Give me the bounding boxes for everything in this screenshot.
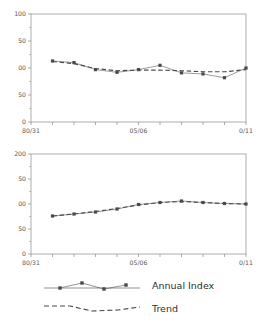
data-point-marker [72,61,75,64]
data-point-marker [115,71,118,74]
y-tick-label: 50 [18,37,26,44]
y-tick-label: 50 [18,225,26,232]
y-tick-label: 50 [18,175,26,182]
data-point-marker [94,210,97,213]
y-tick-label: 0 [22,118,26,125]
legend-swatch-trend [40,298,144,318]
y-tick-label: 00 [18,64,26,71]
data-point-marker [201,201,204,204]
series-line-trend [53,62,247,72]
y-tick-label: 100 [14,10,26,17]
data-point-marker [51,59,54,62]
data-point-marker [244,202,247,205]
data-point-marker [72,212,75,215]
series-line-annual-index [53,61,247,78]
data-point-marker [158,64,161,67]
data-point-marker [223,202,226,205]
legend-swatch-annual-index [40,276,144,296]
chart-plot-top: 050005010080/3105/060/11 [0,0,271,148]
data-point-marker [51,214,54,217]
x-tick-label: 0/11 [239,127,253,134]
chart-figure: 050005010080/3105/060/11 050005020080/31… [0,0,271,327]
chart-panel-bottom: 050005020080/3105/060/11 [0,140,271,272]
x-tick-label: 80/31 [22,259,40,266]
data-point-marker [180,71,183,74]
x-tick-label: 05/06 [130,259,148,266]
legend-marker [58,286,61,289]
chart-legend: Annual Index Trend [0,272,271,327]
series-line-annual-index [53,201,247,216]
data-point-marker [158,201,161,204]
data-point-marker [94,68,97,71]
legend-marker [102,287,105,290]
legend-marker [124,283,127,286]
legend-label-trend: Trend [152,303,178,314]
chart-plot-bottom: 050005020080/3105/060/11 [0,140,271,272]
x-tick-label: 05/06 [130,127,148,134]
y-tick-label: 0 [22,250,26,257]
data-point-marker [137,68,140,71]
legend-label-annual-index: Annual Index [152,280,214,291]
data-point-marker [223,76,226,79]
x-tick-label: 0/11 [239,259,253,266]
data-point-marker [180,199,183,202]
data-point-marker [244,66,247,69]
y-tick-label: 200 [14,150,26,157]
data-point-marker [137,203,140,206]
legend-marker [80,281,83,284]
y-tick-label: 00 [18,200,26,207]
y-tick-label: 50 [18,91,26,98]
data-point-marker [201,72,204,75]
x-tick-label: 80/31 [22,127,40,134]
data-point-marker [115,207,118,210]
chart-panel-top: 050005010080/3105/060/11 [0,0,271,148]
